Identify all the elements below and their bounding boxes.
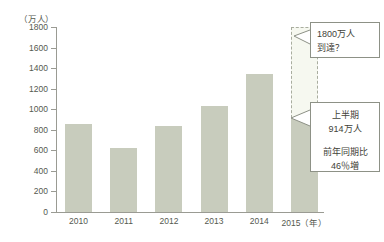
x-axis-line (56, 212, 324, 213)
x-axis-label-2015: 2015（年） (281, 216, 327, 228)
bar-chart: （万人） 180016001400120010008006004002000 2… (0, 0, 384, 242)
callout-projection-line2: 到達？ (317, 41, 373, 55)
y-axis-tick-label: 1000 (10, 104, 48, 114)
y-axis-tick (51, 212, 57, 213)
bar-2014 (246, 74, 273, 212)
callout-first-half-line2: 914万人 (316, 122, 374, 136)
y-axis-tick-label: 400 (10, 166, 48, 176)
callout-first-half-line3: 前年同期比 (316, 145, 374, 159)
y-axis-tick-label: 800 (10, 125, 48, 135)
y-axis-tick-label: 600 (10, 145, 48, 155)
y-axis-tick-label: 1600 (10, 43, 48, 53)
callout-first-half-line4: 46％増 (316, 159, 374, 173)
callout-projection: 1800万人 到達？ (310, 22, 380, 58)
bar-2011 (110, 148, 137, 212)
y-axis-tick-label: 200 (10, 186, 48, 196)
callout-first-half-line1: 上半期 (316, 108, 374, 122)
x-axis-label-2010: 2010 (69, 216, 88, 226)
x-axis-label-2013: 2013 (205, 216, 224, 226)
x-axis-label-2011: 2011 (115, 216, 133, 226)
bar-2012 (155, 126, 182, 212)
y-axis-tick-label: 1400 (10, 63, 48, 73)
callout-projection-line1: 1800万人 (317, 27, 373, 41)
bar-2010 (65, 124, 92, 212)
y-axis-tick-label: 1800 (10, 22, 48, 32)
x-axis-label-2012: 2012 (159, 216, 178, 226)
callout-first-half: 上半期 914万人 前年同期比 46％増 (310, 102, 380, 172)
bar-2013 (201, 106, 228, 212)
y-axis-tick-label: 0 (10, 207, 48, 217)
x-axis-label-2014: 2014 (250, 216, 269, 226)
y-axis-tick-label: 1200 (10, 84, 48, 94)
bars-layer (56, 27, 327, 212)
